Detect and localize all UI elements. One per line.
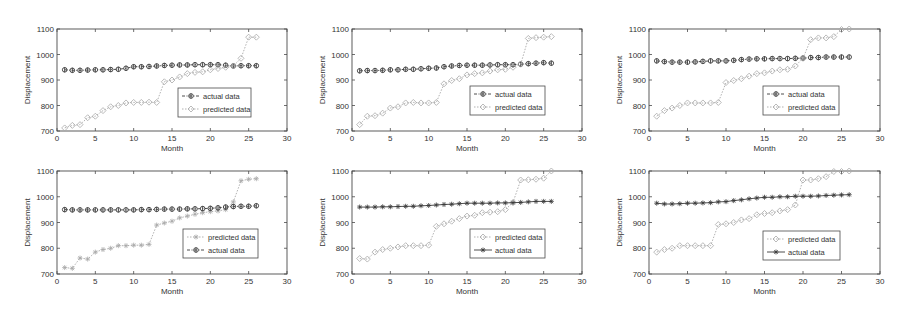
data-point-marker — [816, 193, 821, 198]
y-tick-label: 700 — [633, 270, 647, 279]
x-tick-label: 10 — [722, 134, 731, 143]
figure-canvas: 05101520253070080090010001100MonthDispla… — [0, 0, 913, 310]
y-tick-label: 1100 — [629, 25, 647, 34]
data-point-marker — [480, 201, 485, 206]
data-point-marker — [847, 192, 852, 197]
data-point-marker — [154, 223, 159, 228]
x-tick-label: 30 — [578, 134, 587, 143]
legend-label: predicted data — [208, 233, 256, 242]
data-point-marker — [162, 221, 167, 226]
subplot-bottom-left: 05101520253070080090010001100MonthDispla… — [23, 167, 292, 296]
data-point-marker — [747, 196, 752, 201]
data-point-marker — [365, 205, 370, 210]
legend-label: predicted data — [495, 233, 543, 242]
y-axis-label: Displacement — [615, 55, 624, 104]
x-tick-label: 30 — [876, 277, 885, 286]
x-tick-label: 15 — [168, 134, 177, 143]
y-axis-label: Displacement — [318, 55, 327, 104]
y-axis-label: Displacement — [615, 197, 624, 246]
y-tick-label: 800 — [336, 102, 350, 111]
data-point-marker — [357, 205, 362, 210]
data-point-marker — [434, 202, 439, 207]
data-point-marker — [185, 214, 190, 219]
y-tick-label: 1000 — [628, 51, 646, 60]
y-tick-label: 900 — [41, 219, 55, 228]
data-point-marker — [231, 199, 236, 204]
x-tick-label: 10 — [424, 277, 433, 286]
data-point-marker — [511, 200, 516, 205]
data-point-marker — [693, 201, 698, 206]
x-axis-label: Month — [753, 144, 775, 153]
data-point-marker — [62, 265, 67, 270]
data-point-marker — [488, 201, 493, 206]
data-point-marker — [78, 256, 83, 261]
data-point-marker — [685, 201, 690, 206]
data-point-marker — [403, 204, 408, 209]
x-tick-label: 30 — [283, 277, 292, 286]
x-tick-label: 30 — [283, 134, 292, 143]
x-tick-label: 20 — [501, 277, 510, 286]
data-point-marker — [131, 243, 136, 248]
x-tick-label: 0 — [647, 277, 652, 286]
data-point-marker — [549, 199, 554, 204]
x-tick-label: 5 — [93, 134, 98, 143]
x-tick-label: 30 — [578, 277, 587, 286]
data-point-marker — [739, 197, 744, 202]
legend-label: predicted data — [788, 235, 836, 244]
legend-marker — [194, 235, 199, 240]
x-axis-label: Month — [161, 144, 183, 153]
x-tick-label: 10 — [129, 277, 138, 286]
data-point-marker — [724, 199, 729, 204]
x-tick-label: 5 — [685, 277, 690, 286]
x-tick-label: 10 — [722, 277, 731, 286]
x-tick-label: 0 — [350, 134, 355, 143]
x-tick-label: 10 — [129, 134, 138, 143]
legend-label: predicted data — [788, 103, 836, 112]
data-point-marker — [662, 201, 667, 206]
legend: actual datapredicted data — [470, 86, 545, 115]
legend-label: predicted data — [495, 103, 543, 112]
data-point-marker — [177, 215, 182, 220]
data-point-marker — [801, 194, 806, 199]
y-tick-label: 900 — [336, 219, 350, 228]
legend: predicted dataactual data — [763, 231, 840, 260]
data-point-marker — [396, 204, 401, 209]
data-point-marker — [716, 199, 721, 204]
y-tick-label: 1100 — [332, 25, 350, 34]
legend-label: actual data — [495, 246, 533, 255]
x-tick-label: 20 — [206, 134, 215, 143]
plot-area — [57, 29, 287, 131]
data-point-marker — [139, 243, 144, 248]
legend-label: actual data — [203, 92, 241, 101]
x-tick-label: 5 — [93, 277, 98, 286]
y-tick-label: 700 — [41, 270, 55, 279]
data-point-marker — [677, 201, 682, 206]
data-point-marker — [808, 194, 813, 199]
data-point-marker — [116, 243, 121, 248]
y-tick-label: 1100 — [37, 167, 55, 176]
y-tick-label: 900 — [633, 76, 647, 85]
data-point-marker — [449, 202, 454, 207]
legend-label: predicted data — [203, 105, 251, 114]
plot-area — [352, 171, 582, 274]
data-point-marker — [239, 178, 244, 183]
legend-label: actual data — [208, 246, 246, 255]
y-tick-label: 700 — [336, 127, 350, 136]
y-tick-label: 1000 — [331, 193, 349, 202]
x-axis-label: Month — [456, 287, 478, 296]
data-point-marker — [442, 202, 447, 207]
plot-area — [649, 29, 880, 131]
data-point-marker — [534, 199, 539, 204]
y-tick-label: 900 — [41, 76, 55, 85]
data-point-marker — [147, 242, 152, 247]
y-tick-label: 900 — [633, 219, 647, 228]
x-axis-label: Month — [161, 287, 183, 296]
x-tick-label: 25 — [837, 277, 846, 286]
subplot-bottom-right: 05101520253070080090010001100MonthDispla… — [615, 167, 885, 296]
subplot-bottom-middle: 05101520253070080090010001100MonthDispla… — [318, 167, 587, 296]
data-point-marker — [708, 200, 713, 205]
data-point-marker — [762, 195, 767, 200]
data-point-marker — [426, 203, 431, 208]
x-tick-label: 0 — [55, 134, 60, 143]
legend: actual datapredicted data — [178, 88, 251, 117]
